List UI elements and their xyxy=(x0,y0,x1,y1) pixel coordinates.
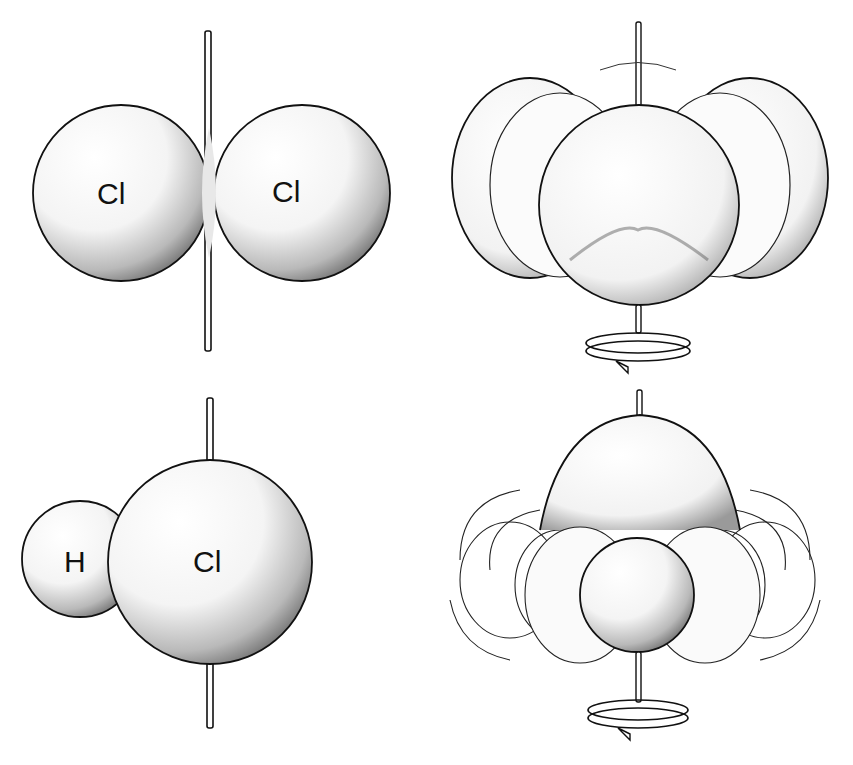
front-sphere xyxy=(539,105,739,305)
hcl-rotation-diagram xyxy=(420,380,853,765)
panel-hcl-rotating xyxy=(420,380,853,765)
hcl-molecule-diagram: H Cl xyxy=(0,380,420,765)
rotation-axis-rod-bottom xyxy=(636,652,641,702)
panel-cl2-rotating xyxy=(420,0,853,390)
cl-atom-right xyxy=(214,105,390,281)
cl2-molecule-diagram: Cl Cl xyxy=(0,0,420,380)
rotation-axis-rod-bottom xyxy=(636,305,641,333)
atom-label-cl-left: Cl xyxy=(97,177,125,210)
rotation-arrow-icon xyxy=(588,700,688,740)
atom-label-cl-right: Cl xyxy=(272,175,300,208)
atom-label-h: H xyxy=(64,545,86,578)
cl2-rotation-diagram xyxy=(420,0,853,390)
panel-cl2-static: Cl Cl xyxy=(0,0,420,380)
panel-hcl-static: H Cl xyxy=(0,380,420,765)
atom-label-cl: Cl xyxy=(193,545,221,578)
rotation-arrow-icon xyxy=(586,333,690,373)
front-sphere xyxy=(580,538,694,652)
cl-swept-dome xyxy=(540,415,740,530)
